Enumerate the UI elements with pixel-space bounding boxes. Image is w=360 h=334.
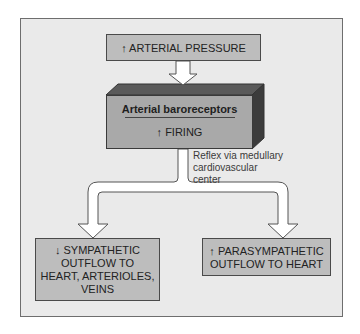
up-arrow-icon: ↑ [209,245,215,257]
up-arrow-icon: ↑ [121,42,127,54]
title-underline [125,117,235,118]
firing-row: ↑ FIRING [107,126,252,138]
box-text: SYMPATHETIC [63,244,140,256]
box-line: ↑ PARASYMPATHETIC [203,245,330,258]
note-line: center [193,174,283,186]
box-line: HEART, ARTERIOLES, [36,270,159,283]
box-line: OUTFLOW TO HEART [203,258,330,271]
note-line: Reflex via medullary [193,150,283,162]
box-line: ↓ SYMPATHETIC [36,244,159,257]
firing-label: FIRING [165,126,202,138]
note-line: cardiovascular [193,162,283,174]
down-arrow-icon: ↓ [55,244,61,256]
up-arrow-icon: ↑ [157,126,163,138]
parasympathetic-outflow-box: ↑ PARASYMPATHETIC OUTFLOW TO HEART [202,238,331,276]
sympathetic-outflow-box: ↓ SYMPATHETIC OUTFLOW TO HEART, ARTERIOL… [35,238,160,301]
down-arrow-main [169,61,197,85]
block-top-face [106,84,264,95]
arterial-pressure-box: ↑ ARTERIAL PRESSURE [106,34,261,61]
reflex-note: Reflex via medullary cardiovascular cent… [193,150,283,186]
box-line: OUTFLOW TO [36,257,159,270]
arterial-pressure-label: ARTERIAL PRESSURE [129,42,246,54]
box-line: VEINS [36,283,159,296]
baroreceptors-title: Arterial baroreceptors [107,103,252,115]
baroreceptors-block: Arterial baroreceptors ↑ FIRING [106,95,253,149]
block-side-face [252,84,264,149]
box-text: PARASYMPATHETIC [218,245,324,257]
